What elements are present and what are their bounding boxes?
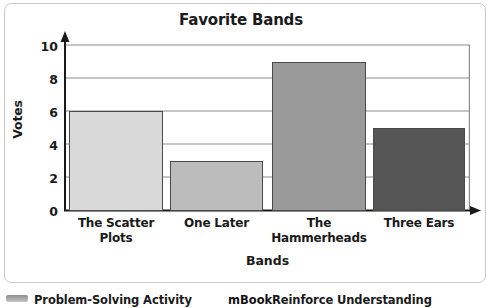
x-axis-label: Bands	[65, 253, 470, 268]
x-category-line: The	[266, 216, 372, 231]
caption-strip: Problem-Solving Activity mBook Reinforce…	[0, 292, 494, 308]
y-tick-label-2: 2	[36, 171, 58, 186]
x-category-line: One Later	[165, 216, 268, 231]
bar-one-later[interactable]	[170, 161, 263, 211]
caption-left-text: Problem-Solving Activity	[34, 293, 192, 307]
y-axis-label: Votes	[10, 90, 25, 150]
x-category-line: Hammerheads	[266, 231, 372, 246]
y-tick-label-4: 4	[36, 138, 58, 153]
y-tick-label-6: 6	[36, 105, 58, 120]
bar-three-ears[interactable]	[373, 128, 465, 211]
x-category-label-the-scatter-plots: The Scatter Plots	[64, 216, 168, 245]
y-tick-label-10: 10	[29, 39, 58, 54]
x-category-line: The Scatter	[64, 216, 168, 231]
x-category-label-the-hammerheads: The Hammerheads	[266, 216, 372, 245]
y-tick-label-8: 8	[36, 72, 58, 87]
y-tick-label-0: 0	[36, 204, 58, 219]
caption-brand: mBook	[228, 293, 272, 307]
bar-the-hammerheads[interactable]	[272, 62, 366, 211]
page-root: Favorite Bands Votes 0 2 4 6 8 10	[0, 0, 494, 308]
x-category-label-three-ears: Three Ears	[368, 216, 470, 231]
x-category-line: Three Ears	[368, 216, 470, 231]
x-category-line: Plots	[64, 231, 168, 246]
x-category-label-one-later: One Later	[165, 216, 268, 231]
book-swatch-icon	[6, 295, 28, 302]
caption-right-text: Reinforce Understanding	[272, 293, 432, 307]
chart-title: Favorite Bands	[0, 11, 482, 29]
bar-the-scatter-plots[interactable]	[69, 111, 163, 211]
